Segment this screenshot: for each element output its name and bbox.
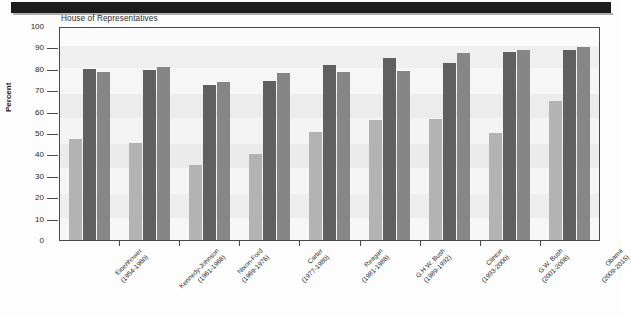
bar	[577, 47, 590, 240]
y-tick-mark	[47, 48, 58, 49]
bar	[563, 50, 576, 240]
bar	[549, 101, 562, 240]
x-tick-mark	[239, 241, 240, 246]
bar	[203, 85, 216, 240]
y-tick-mark	[47, 198, 58, 199]
bar	[309, 132, 322, 240]
bar	[69, 139, 82, 240]
bar	[157, 67, 170, 240]
y-tick-label: 70	[4, 86, 44, 95]
y-tick-mark	[47, 220, 58, 221]
y-tick-label: 10	[4, 215, 44, 224]
bar	[337, 72, 350, 240]
bar	[503, 52, 516, 240]
x-category-label: Reagan(1981-1988)	[353, 247, 390, 284]
bar	[277, 73, 290, 240]
bar-group	[180, 28, 240, 240]
bar-group	[539, 28, 599, 240]
bar	[397, 71, 410, 240]
y-tick-mark	[47, 70, 58, 71]
bar-group	[60, 28, 120, 240]
y-tick-label: 90	[4, 43, 44, 52]
x-category-label: G.H.W. Bush(1989-1992)	[414, 247, 453, 286]
bar-group	[300, 28, 360, 240]
y-tick-mark	[47, 91, 58, 92]
bar-groups	[60, 28, 599, 240]
bar	[443, 63, 456, 240]
bar	[129, 143, 142, 240]
bar	[489, 133, 502, 240]
bar	[189, 165, 202, 240]
x-category-label: G.W. Bush(2001-2008)	[534, 247, 571, 284]
x-tick-mark	[540, 241, 541, 246]
bar	[457, 53, 470, 240]
y-tick-label: 50	[4, 129, 44, 138]
y-tick-mark	[47, 113, 58, 114]
y-tick-label: 80	[4, 65, 44, 74]
bar	[249, 154, 262, 240]
x-category-label: Nixon-Ford(1969-1976)	[233, 247, 270, 284]
y-tick-mark	[47, 177, 58, 178]
x-tick-mark	[179, 241, 180, 246]
bar-group	[419, 28, 479, 240]
y-tick-mark	[47, 134, 58, 135]
x-tick-mark	[480, 241, 481, 246]
x-category-label: Kennedy-Johnson(1961-1968)	[178, 247, 228, 297]
bar	[83, 69, 96, 240]
plot-area	[59, 27, 600, 241]
x-tick-mark	[119, 241, 120, 246]
bar-group	[479, 28, 539, 240]
x-category-label: Obama(2009-2015)	[594, 247, 631, 284]
bar	[97, 72, 110, 240]
bar	[263, 81, 276, 240]
bar	[429, 119, 442, 240]
bar	[369, 120, 382, 240]
bar	[143, 70, 156, 240]
bar	[383, 58, 396, 240]
bar	[517, 50, 530, 240]
x-tick-mark	[360, 241, 361, 246]
bar	[323, 65, 336, 240]
x-category-label: Eisenhower(1954-1960)	[113, 247, 150, 284]
y-axis-tick-labels: 1009080706050403020100	[0, 0, 44, 317]
x-tick-mark	[420, 241, 421, 246]
y-tick-mark	[47, 155, 58, 156]
y-tick-label: 100	[4, 22, 44, 31]
y-tick-label: 60	[4, 108, 44, 117]
scan-header-bar	[11, 2, 611, 13]
x-tick-mark	[299, 241, 300, 246]
bar-group	[240, 28, 300, 240]
x-category-label: Clinton(1993-2000)	[473, 247, 510, 284]
bar-group	[120, 28, 180, 240]
bar-group	[359, 28, 419, 240]
chart-title: House of Representatives	[61, 14, 158, 23]
y-tick-label: 30	[4, 172, 44, 181]
y-tick-label: 20	[4, 193, 44, 202]
bar	[217, 82, 230, 240]
y-tick-label: 0	[4, 236, 44, 245]
x-axis-category-labels: Eisenhower(1954-1960)Kennedy-Johnson(196…	[59, 247, 600, 317]
x-category-label: Carter(1977-1980)	[293, 247, 330, 284]
y-tick-label: 40	[4, 150, 44, 159]
